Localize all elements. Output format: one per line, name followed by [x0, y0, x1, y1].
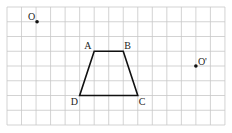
label-a: A: [84, 40, 92, 51]
label-b: B: [124, 40, 131, 51]
label-c: C: [139, 96, 146, 107]
label-d: D: [71, 96, 78, 107]
point-o: [35, 20, 39, 24]
grid-diagram: A B C D O O': [0, 0, 232, 133]
label-o: O: [28, 11, 35, 22]
grid-lines: [7, 7, 225, 125]
label-o-prime: O': [198, 56, 207, 67]
